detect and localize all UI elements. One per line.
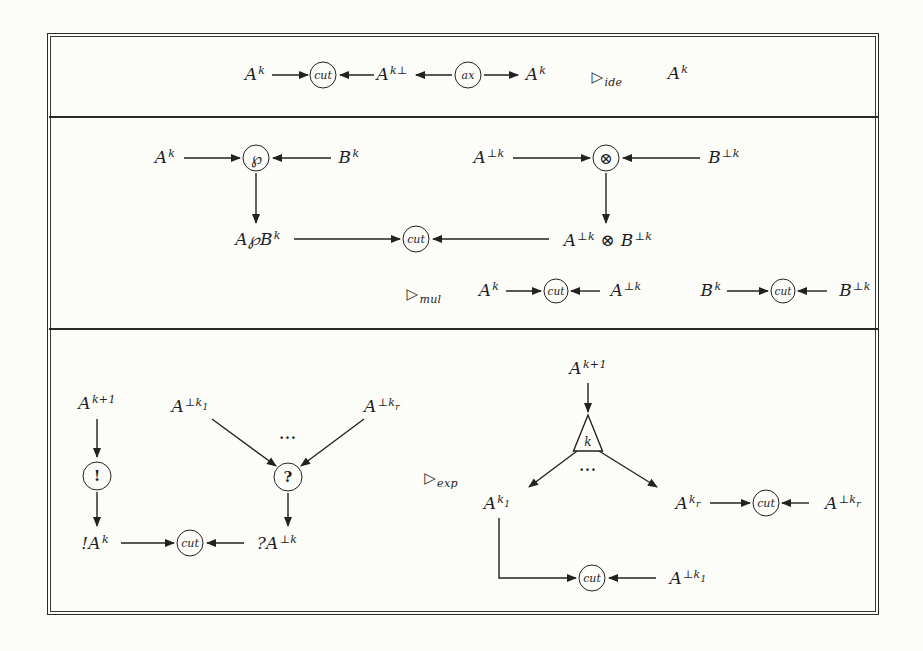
ofcourse-node-label: ! <box>94 469 101 484</box>
tensor-node: ⊗ <box>593 145 620 172</box>
formula-a-perp-kr: A⊥kr <box>364 398 400 415</box>
formula-ak-plus-1: Ak+1 <box>569 360 606 377</box>
whynot-node: ? <box>274 463 303 492</box>
cut-node-label: cut <box>775 286 792 297</box>
cut-node-label: cut <box>757 498 775 509</box>
formula-bang-ak: !Ak <box>81 535 109 552</box>
formula-ak: Ak <box>155 149 176 166</box>
cut-node: cut <box>771 279 796 304</box>
ellipsis: ... <box>579 459 597 473</box>
panel-divider-2 <box>49 328 878 330</box>
formula-b-perp-k: B⊥k <box>708 149 739 166</box>
cut-node-label: cut <box>181 538 199 549</box>
cut-node-label: cut <box>314 70 332 81</box>
ax-node-label: ax <box>462 70 475 81</box>
tensor-node-label: ⊗ <box>599 150 612 166</box>
reduces-exp: ▷exp <box>424 469 458 486</box>
whynot-node-label: ? <box>284 470 293 485</box>
cut-node: cut <box>579 565 606 592</box>
cut-node: cut <box>403 226 430 253</box>
formula-b-perp-k: B⊥k <box>839 282 870 299</box>
figure-frame <box>47 33 879 615</box>
scanned-figure-page: Ak cut Ak⊥ ax Ak ▷ide Ak Ak ℘ Bk A⊥k ⊗ B… <box>0 0 923 651</box>
ofcourse-node: ! <box>83 462 112 491</box>
formula-a-kr: Akr <box>675 495 700 512</box>
cut-node: cut <box>544 279 569 304</box>
formula-quest-a-perp-k: ?A⊥k <box>257 535 298 552</box>
formula-a-par-b-k: A℘Bk <box>235 231 281 248</box>
triangle-k-label: k <box>584 436 591 448</box>
formula-ak: Ak <box>526 66 547 83</box>
formula-a-perp-k1: A⊥k1 <box>669 570 706 587</box>
formula-bk: Bk <box>339 149 360 166</box>
par-node-label: ℘ <box>251 150 262 166</box>
formula-a-perp-tensor-b-perp: A⊥k ⊗ B⊥k <box>564 232 653 249</box>
ax-node: ax <box>455 62 482 89</box>
formula-a-perp-k1: A⊥k1 <box>171 398 208 415</box>
cut-node: cut <box>310 62 337 89</box>
formula-bk: Bk <box>701 282 722 299</box>
ellipsis: ... <box>279 427 297 441</box>
cut-node: cut <box>753 490 780 517</box>
cut-node-label: cut <box>583 573 601 584</box>
cut-node-label: cut <box>407 234 425 245</box>
par-node: ℘ <box>243 145 270 172</box>
reduces-mul: ▷mul <box>407 285 442 302</box>
cut-node-label: cut <box>548 286 565 297</box>
panel-divider-1 <box>49 116 878 118</box>
cut-node: cut <box>177 530 204 557</box>
formula-a-perp-kr: A⊥kr <box>825 495 861 512</box>
formula-ak-plus-1: Ak+1 <box>78 395 115 412</box>
formula-ak-perp: Ak⊥ <box>376 66 407 83</box>
reduces-ide: ▷ide <box>592 68 623 85</box>
formula-a-k1: Ak1 <box>484 495 511 512</box>
formula-ak: Ak <box>479 282 500 299</box>
formula-ak: Ak <box>245 66 266 83</box>
formula-a-perp-k: A⊥k <box>610 282 641 299</box>
formula-a-perp-k: A⊥k <box>473 149 504 166</box>
formula-ak-result: Ak <box>668 65 689 82</box>
